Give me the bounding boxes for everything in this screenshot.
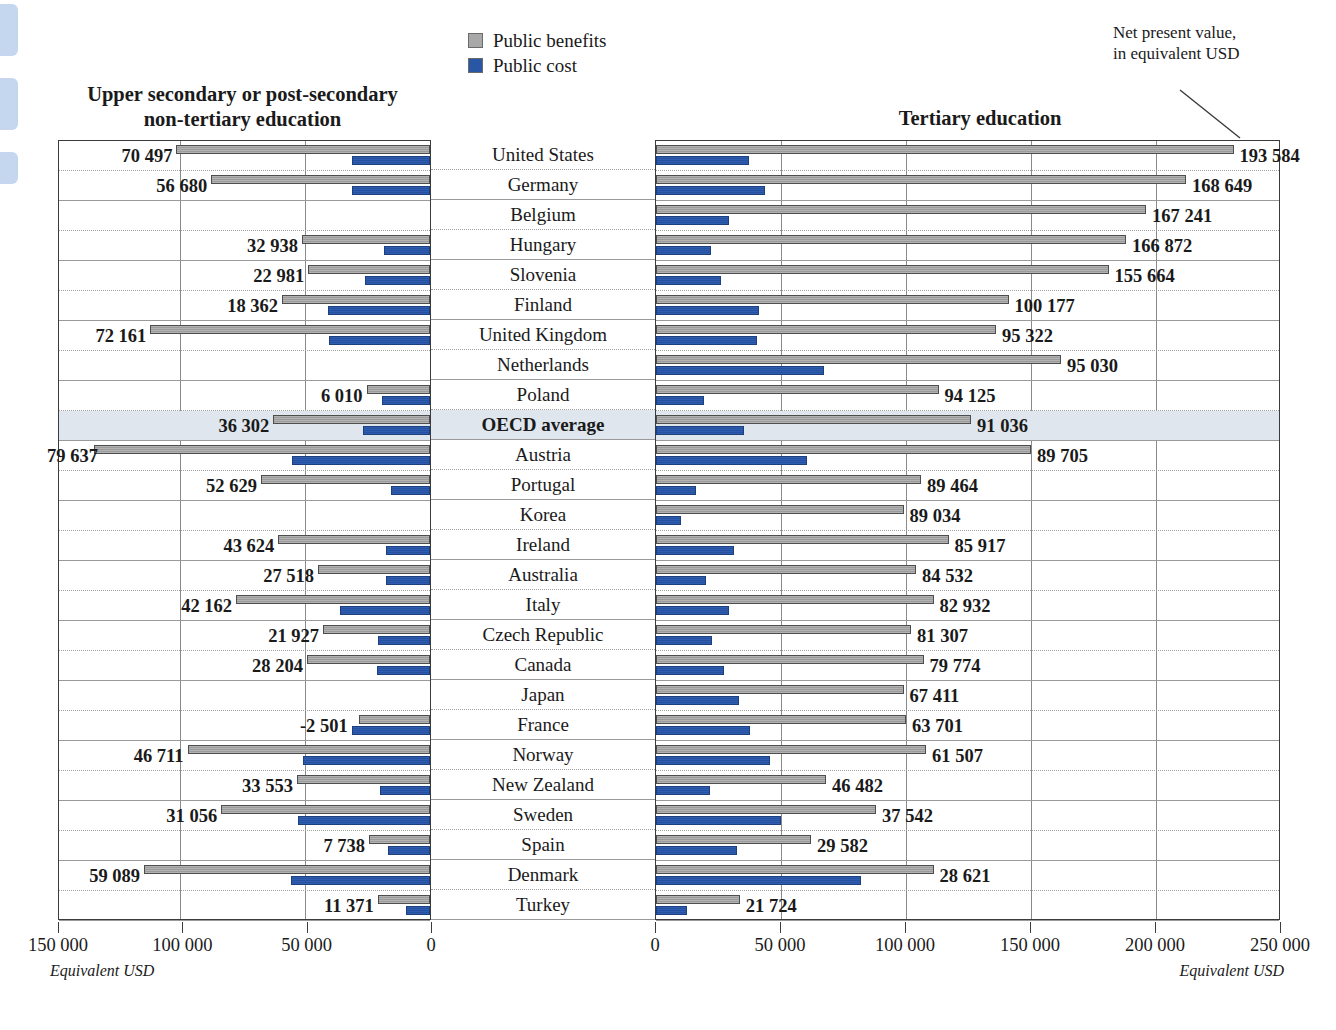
benefit-bar-right bbox=[656, 355, 1061, 364]
axis-tick bbox=[182, 922, 183, 933]
country-label: Slovenia bbox=[431, 260, 655, 290]
benefit-bar-right bbox=[656, 415, 971, 424]
benefit-bar-left bbox=[94, 445, 430, 454]
country-label: Poland bbox=[431, 380, 655, 410]
legend-item-public-benefits: Public benefits bbox=[468, 28, 606, 53]
country-label-text: Norway bbox=[512, 744, 573, 765]
value-label-right: 46 482 bbox=[832, 771, 883, 801]
cost-bar-left bbox=[380, 786, 430, 795]
benefit-bar-left bbox=[369, 835, 430, 844]
chart-row: 79 637 bbox=[59, 441, 430, 471]
value-label-right: 168 649 bbox=[1192, 171, 1252, 201]
axis-tick-label: 0 bbox=[650, 935, 659, 956]
benefit-bar-right bbox=[656, 835, 811, 844]
benefit-bar-right bbox=[656, 205, 1146, 214]
benefit-bar-right bbox=[656, 265, 1109, 274]
value-label-left: 52 629 bbox=[47, 471, 257, 501]
cost-bar-right bbox=[656, 156, 749, 165]
chart-row: 82 932 bbox=[656, 591, 1279, 621]
value-label-left: 27 518 bbox=[47, 561, 314, 591]
cost-bar-right bbox=[656, 246, 711, 255]
chart-row: -2 501 bbox=[59, 711, 430, 741]
benefit-bar-right bbox=[656, 655, 924, 664]
value-label-right: 89 705 bbox=[1037, 441, 1088, 471]
cost-bar-left bbox=[382, 396, 430, 405]
chart-row: 43 624 bbox=[59, 531, 430, 561]
benefit-bar-right bbox=[656, 175, 1186, 184]
country-label: Korea bbox=[431, 500, 655, 530]
axis-tick-label: 0 bbox=[426, 935, 435, 956]
value-label-left: 18 362 bbox=[47, 291, 278, 321]
chart-row: 70 497 bbox=[59, 141, 430, 171]
cost-bar-left bbox=[378, 636, 430, 645]
chart-row: 21 724 bbox=[656, 891, 1279, 921]
country-label-text: Slovenia bbox=[510, 264, 577, 285]
legend-item-public-cost: Public cost bbox=[468, 53, 606, 78]
value-label-right: 29 582 bbox=[817, 831, 868, 861]
country-label: Finland bbox=[431, 290, 655, 320]
chart-row: 89 705 bbox=[656, 441, 1279, 471]
benefit-bar-right bbox=[656, 715, 906, 724]
benefit-bar-right bbox=[656, 745, 926, 754]
value-label-left: 59 089 bbox=[47, 861, 140, 891]
benefit-bar-right bbox=[656, 775, 826, 784]
benefit-bar-left bbox=[282, 295, 430, 304]
country-label-text: Japan bbox=[521, 684, 564, 705]
country-label-text: Denmark bbox=[508, 864, 579, 885]
chart-row: 22 981 bbox=[59, 261, 430, 291]
chart-row: 79 774 bbox=[656, 651, 1279, 681]
country-label: United States bbox=[431, 140, 655, 170]
benefit-bar-right bbox=[656, 685, 904, 694]
country-label-text: United Kingdom bbox=[479, 324, 607, 345]
cost-bar-right bbox=[656, 456, 807, 465]
chart-row: 46 482 bbox=[656, 771, 1279, 801]
value-label-left: 7 738 bbox=[47, 831, 365, 861]
value-label-right: 89 034 bbox=[910, 501, 961, 531]
value-label-right: 37 542 bbox=[882, 801, 933, 831]
value-label-right: 193 584 bbox=[1240, 141, 1300, 171]
chart-row: 166 872 bbox=[656, 231, 1279, 261]
npv-leader-line-icon bbox=[1178, 88, 1248, 140]
value-label-right: 61 507 bbox=[932, 741, 983, 771]
chart-row: 18 362 bbox=[59, 291, 430, 321]
cost-bar-right bbox=[656, 816, 781, 825]
axis-tick bbox=[1030, 922, 1031, 933]
benefit-bar-left bbox=[367, 385, 430, 394]
legend-label-public-cost: Public cost bbox=[493, 55, 577, 77]
country-label: United Kingdom bbox=[431, 320, 655, 350]
country-label-text: New Zealand bbox=[492, 774, 594, 795]
value-label-right: 100 177 bbox=[1015, 291, 1075, 321]
benefit-bar-right bbox=[656, 235, 1126, 244]
value-label-right: 95 322 bbox=[1002, 321, 1053, 351]
cost-bar-right bbox=[656, 906, 687, 915]
country-label-text: Sweden bbox=[513, 804, 573, 825]
value-label-right: 67 411 bbox=[910, 681, 960, 711]
country-label-text: Ireland bbox=[516, 534, 570, 555]
benefit-bar-left bbox=[318, 565, 430, 574]
cost-bar-left bbox=[363, 426, 430, 435]
npv-note-line2: in equivalent USD bbox=[1113, 43, 1288, 64]
value-label-right: 155 664 bbox=[1115, 261, 1175, 291]
country-label: Italy bbox=[431, 590, 655, 620]
country-label-text: Spain bbox=[521, 834, 564, 855]
country-label: Norway bbox=[431, 740, 655, 770]
benefit-bar-right bbox=[656, 805, 876, 814]
cost-bar-left bbox=[303, 756, 430, 765]
cost-bar-left bbox=[329, 336, 430, 345]
net-present-value-note: Net present value, in equivalent USD bbox=[1113, 22, 1288, 64]
cost-bar-right bbox=[656, 486, 696, 495]
value-label-left: -2 501 bbox=[47, 711, 348, 741]
value-label-left: 21 927 bbox=[47, 621, 319, 651]
benefit-bar-right bbox=[656, 625, 911, 634]
value-label-right: 82 932 bbox=[940, 591, 991, 621]
chart-row bbox=[59, 501, 430, 531]
value-label-left: 36 302 bbox=[47, 411, 269, 441]
value-label-left: 43 624 bbox=[47, 531, 274, 561]
benefit-bar-left bbox=[221, 805, 430, 814]
cost-bar-right bbox=[656, 876, 861, 885]
country-label-text: Austria bbox=[515, 444, 571, 465]
benefit-bar-left bbox=[323, 625, 430, 634]
benefit-bar-right bbox=[656, 895, 740, 904]
benefit-bar-right bbox=[656, 475, 921, 484]
axis-tick bbox=[58, 922, 59, 933]
